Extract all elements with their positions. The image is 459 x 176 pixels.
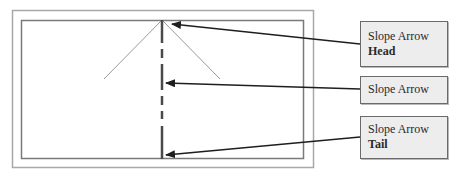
arrow-head-left-line — [104, 20, 162, 79]
pointer-head — [172, 24, 360, 44]
callout-label: Slope Arrow — [368, 29, 443, 44]
callout-label: Slope Arrow — [368, 122, 443, 137]
callout-slope-arrow: Slope Arrow — [360, 76, 448, 104]
callout-part-label: Tail — [368, 137, 443, 152]
pointer-body — [166, 83, 360, 89]
arrow-head-right-line — [162, 20, 220, 79]
pointer-tail — [166, 137, 360, 155]
callout-label: Slope Arrow — [368, 82, 443, 97]
callout-slope-arrow-tail: Slope Arrow Tail — [360, 116, 448, 159]
callout-slope-arrow-head: Slope Arrow Head — [360, 21, 448, 67]
callout-part-label: Head — [368, 44, 443, 59]
